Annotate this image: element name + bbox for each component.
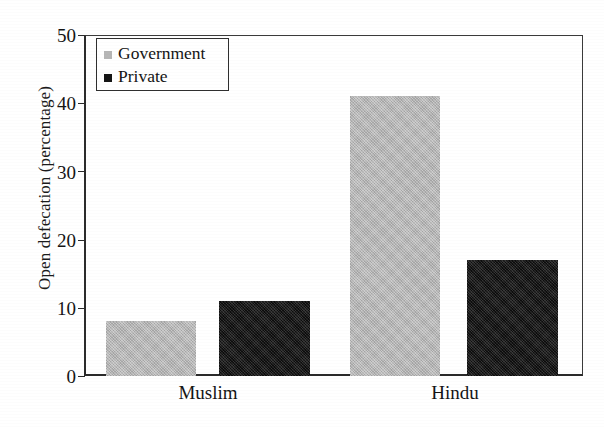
y-tick-label-30: 30 [38, 163, 76, 182]
bar-muslim-government [106, 321, 196, 376]
bar-hindu-government [350, 96, 440, 376]
legend-item-government: Government [104, 42, 222, 65]
y-tick-label-50: 50 [38, 26, 76, 45]
y-tick-label-40: 40 [38, 94, 76, 113]
legend-item-private: Private [104, 65, 222, 88]
y-axis-tick-labels: 50 40 30 20 10 0 [34, 0, 76, 427]
legend-swatch-private-icon [104, 74, 112, 82]
y-tick-label-20: 20 [38, 231, 76, 250]
legend-label-government: Government [118, 44, 205, 63]
bar-hindu-private [467, 260, 558, 376]
legend-swatch-government-icon [104, 51, 112, 59]
bar-muslim-private [219, 301, 310, 376]
legend: Government Private [96, 38, 229, 91]
y-tick-mark-0 [78, 376, 85, 377]
x-category-label-hindu: Hindu [395, 382, 515, 404]
y-tick-label-10: 10 [38, 299, 76, 318]
x-category-label-muslim: Muslim [148, 382, 268, 404]
y-tick-label-0: 0 [38, 367, 76, 386]
bar-chart-figure: Open defecation (percentage) 50 40 30 20… [0, 0, 604, 427]
legend-label-private: Private [118, 67, 168, 86]
